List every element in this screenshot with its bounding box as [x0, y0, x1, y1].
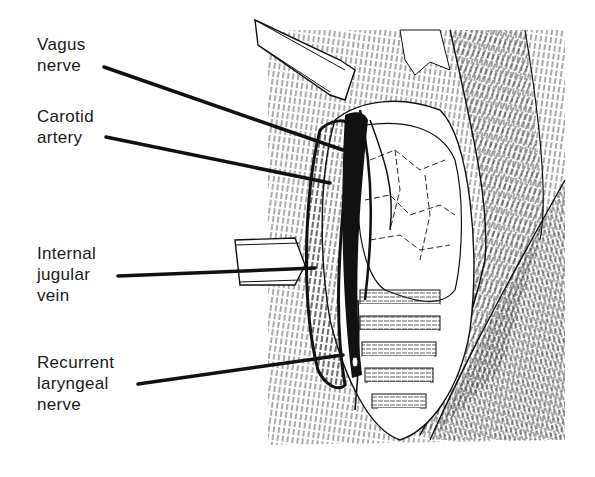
thyroid-lobe	[356, 123, 461, 301]
label-carotid-artery: Carotid artery	[37, 106, 94, 148]
label-internal-jugular-vein: Internal jugular vein	[37, 243, 96, 306]
label-vagus-nerve: Vagus nerve	[37, 34, 85, 76]
label-recurrent-laryngeal-nerve: Recurrent laryngeal nerve	[37, 352, 114, 415]
